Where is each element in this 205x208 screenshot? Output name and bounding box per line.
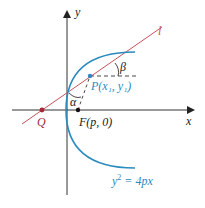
parabola-diagram: y x l β α P(x₁, y₁) Q F(p, 0) y2 = 4px [0, 0, 205, 208]
x-axis-label: x [185, 114, 192, 128]
point-p-label: P(x₁, y₁) [90, 79, 131, 93]
alpha-label: α [70, 95, 77, 109]
diagram-svg: y x l β α P(x₁, y₁) Q F(p, 0) y2 = 4px [0, 0, 205, 208]
point-q-label: Q [37, 115, 46, 129]
point-p-marker [88, 74, 92, 78]
point-q-marker [40, 108, 45, 113]
equation-label: y2 = 4px [111, 173, 153, 188]
focus-label: F(p, 0) [78, 115, 112, 129]
beta-label: β [119, 60, 126, 74]
beta-arc [115, 63, 119, 76]
tangent-line-label: l [158, 24, 162, 38]
focus-marker [76, 108, 80, 112]
y-axis-label: y [74, 5, 81, 19]
